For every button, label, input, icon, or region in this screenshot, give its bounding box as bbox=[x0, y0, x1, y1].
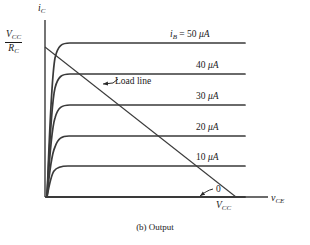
load-line-leader bbox=[103, 83, 113, 84]
curve-label-ib-20ua: 20 μA bbox=[196, 122, 218, 132]
x-intercept-label: VCC bbox=[216, 201, 231, 212]
axis-lines bbox=[45, 20, 268, 197]
y-intercept-label: VCC RC bbox=[5, 30, 22, 54]
x-axis-label-sub: CE bbox=[275, 197, 284, 205]
y-intercept-numerator: VCC bbox=[5, 30, 22, 43]
curve-label-ib-50ua: iB = 50 μA bbox=[170, 29, 209, 41]
zero-curve-leader bbox=[200, 189, 213, 196]
curve-label-ib-0ua: 0 bbox=[216, 184, 221, 194]
output-characteristics-figure: iC vCE VCC RC VCC iB = 50 μA 40 μA 30 μA… bbox=[0, 0, 310, 245]
y-axis-label-sub: C bbox=[41, 7, 46, 15]
x-intercept-sub: CC bbox=[222, 204, 231, 212]
figure-caption: (b) Output bbox=[0, 222, 310, 232]
curve-label-ib-30ua: 30 μA bbox=[196, 91, 218, 101]
curve-label-ib-40ua: 40 μA bbox=[196, 60, 218, 70]
plot-canvas bbox=[0, 0, 310, 245]
x-axis-label: vCE bbox=[271, 193, 284, 205]
load-line-label: Load line bbox=[115, 76, 151, 86]
y-axis-label: iC bbox=[38, 3, 45, 15]
y-intercept-denominator: RC bbox=[5, 43, 22, 55]
curve-label-ib-10ua: 10 μA bbox=[196, 152, 218, 162]
